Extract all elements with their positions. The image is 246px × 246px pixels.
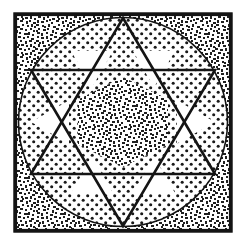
figure-canvas: Hexagram in circle in square Star of Dav…: [0, 0, 246, 246]
hexagram-illustration: [0, 0, 246, 246]
